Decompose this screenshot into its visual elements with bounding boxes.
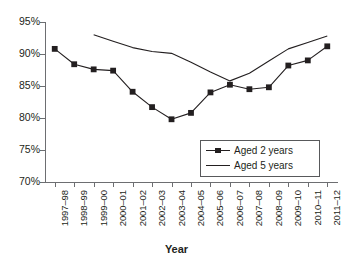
- x-axis-title: Year: [0, 243, 353, 255]
- data-point-marker: [149, 104, 155, 110]
- series-aged-2-years: [52, 43, 330, 122]
- data-point-marker: [324, 43, 330, 49]
- data-point-marker: [169, 116, 175, 122]
- data-point-marker: [285, 63, 291, 69]
- chart-legend: Aged 2 years Aged 5 years: [200, 140, 320, 177]
- data-point-marker: [52, 46, 58, 52]
- data-point-marker: [247, 86, 253, 92]
- data-point-marker: [188, 110, 194, 116]
- data-point-marker: [208, 90, 214, 96]
- legend-item-aged-2-years: Aged 2 years: [205, 143, 315, 158]
- series-line: [94, 35, 328, 81]
- series-aged-5-years: [94, 35, 328, 81]
- data-point-marker: [130, 89, 136, 95]
- data-point-marker: [305, 58, 311, 64]
- legend-key-line-with-square-marker: [205, 146, 231, 156]
- data-point-marker: [110, 68, 116, 74]
- data-point-marker: [266, 84, 272, 90]
- legend-item-aged-5-years: Aged 5 years: [205, 158, 315, 173]
- legend-label-aged-2-years: Aged 2 years: [234, 145, 293, 156]
- data-point-marker: [227, 82, 233, 88]
- line-chart: 95%90%85%80%75%70% 1997–981998–991999–00…: [0, 0, 353, 265]
- legend-key-plain-line: [205, 161, 231, 171]
- legend-label-aged-5-years: Aged 5 years: [234, 160, 293, 171]
- series-plot: [0, 0, 353, 265]
- data-point-marker: [71, 61, 77, 67]
- series-line: [55, 46, 328, 119]
- data-point-marker: [91, 66, 97, 72]
